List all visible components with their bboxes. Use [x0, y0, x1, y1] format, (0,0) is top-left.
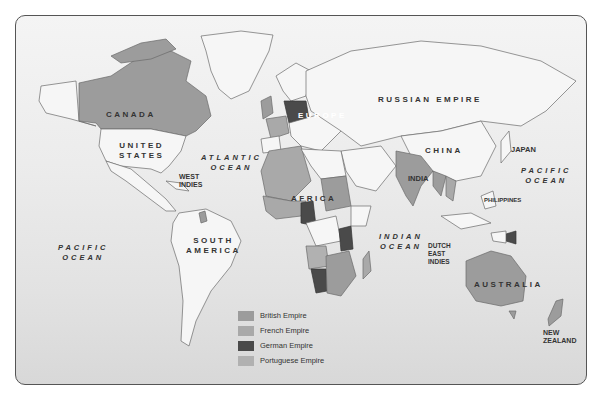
label-europe: EUROPE — [298, 111, 347, 121]
angola — [306, 246, 329, 269]
legend-item-german: German Empire — [238, 338, 324, 353]
label-africa: AFRICA — [291, 194, 336, 204]
madagascar — [363, 251, 371, 279]
french-swatch — [238, 326, 254, 336]
german-swatch — [238, 341, 254, 351]
southern-africa — [326, 251, 356, 296]
dutch-east-indies — [441, 213, 491, 229]
label-india: INDIA — [408, 175, 428, 183]
label-united-states: UNITED STATES — [119, 141, 164, 161]
label-atlantic-ocean: ATLANTIC OCEAN — [201, 153, 262, 173]
legend-label: German Empire — [260, 341, 313, 350]
legend-item-portuguese: Portuguese Empire — [238, 353, 324, 368]
label-pacific-ocean-east: PACIFIC OCEAN — [521, 166, 571, 186]
label-indian-ocean: INDIAN OCEAN — [379, 232, 423, 252]
french-north-africa — [261, 146, 311, 201]
german-new-guinea — [506, 231, 516, 244]
british-isles — [261, 96, 273, 119]
south-america — [171, 209, 241, 346]
legend-label: British Empire — [260, 311, 307, 320]
label-canada: CANADA — [106, 110, 156, 120]
legend-label: French Empire — [260, 326, 309, 335]
german-east-africa — [339, 226, 353, 251]
label-south-america: SOUTH AMERICA — [186, 236, 241, 256]
label-japan: JAPAN — [511, 146, 536, 154]
legend-item-french: French Empire — [238, 323, 324, 338]
legend-item-british: British Empire — [238, 308, 324, 323]
legend-label: Portuguese Empire — [260, 356, 324, 365]
portuguese-swatch — [238, 356, 254, 366]
map-legend: British Empire French Empire German Empi… — [238, 308, 324, 368]
middle-east — [341, 146, 396, 191]
label-china: CHINA — [425, 146, 463, 156]
label-dutch-east-indies: DUTCH EAST INDIES — [428, 242, 451, 266]
australia — [466, 251, 526, 306]
label-new-zealand: NEW ZEALAND — [543, 329, 576, 345]
label-australia: AUSTRALIA — [474, 280, 543, 290]
japan — [501, 131, 511, 163]
france — [266, 116, 289, 139]
canada — [79, 51, 211, 136]
new-zealand — [548, 299, 563, 326]
label-pacific-ocean-west: PACIFIC OCEAN — [58, 243, 108, 263]
map-frame: CANADA UNITED STATES WEST INDIES SOUTH A… — [15, 15, 587, 385]
german-sw-africa — [311, 269, 327, 293]
label-russian-empire: RUSSIAN EMPIRE — [378, 95, 482, 105]
ethiopia — [351, 206, 371, 226]
british-swatch — [238, 311, 254, 321]
label-west-indies: WEST INDIES — [179, 173, 202, 189]
label-philippines: PHILIPPINES — [484, 196, 521, 204]
greenland — [201, 31, 273, 99]
russian-empire — [306, 41, 576, 146]
